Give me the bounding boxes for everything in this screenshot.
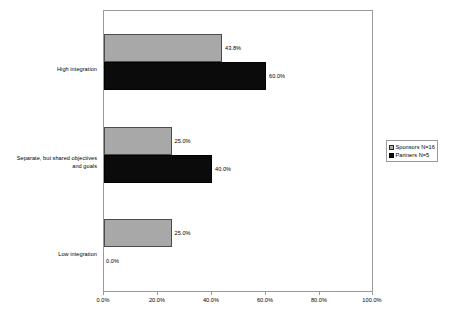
x-axis-tick-labels: 0.0% 20.0% 40.0% 60.0% 80.0% 100.0% bbox=[103, 296, 373, 308]
x-tick-label-100: 100.0% bbox=[362, 296, 381, 304]
x-tick-label-80: 80.0% bbox=[311, 296, 327, 304]
x-tick-label-20: 20.0% bbox=[149, 296, 165, 304]
bar-value-partners-low-integration: 0.0% bbox=[106, 258, 119, 264]
category-label-separate-shared-objectives: Separate, but shared objectives and goal… bbox=[0, 155, 97, 170]
legend-swatch-icon-sponsors bbox=[389, 145, 394, 150]
bar-chart: High integration Separate, but shared ob… bbox=[0, 0, 449, 311]
bar-sponsors-high-integration bbox=[104, 34, 222, 62]
x-tick-label-60: 60.0% bbox=[257, 296, 273, 304]
category-label-low-integration: Low integration bbox=[0, 251, 97, 259]
bar-value-sponsors-high-integration: 43.8% bbox=[225, 45, 241, 51]
legend-label-partners: Partners N=5 bbox=[396, 151, 430, 159]
bar-partners-separate-shared-objectives bbox=[104, 155, 212, 183]
legend-item-sponsors: Sponsors N=16 bbox=[389, 143, 435, 151]
bar-value-sponsors-low-integration: 25.0% bbox=[175, 230, 191, 236]
category-label-high-integration: High integration bbox=[0, 66, 97, 74]
x-tick-mark bbox=[211, 292, 212, 295]
bar-sponsors-low-integration bbox=[104, 219, 172, 247]
x-tick-mark bbox=[103, 292, 104, 295]
bar-value-partners-separate-shared-objectives: 40.0% bbox=[215, 166, 231, 172]
x-tick-mark bbox=[372, 292, 373, 295]
x-tick-label-0: 0.0% bbox=[97, 296, 110, 304]
x-tick-label-40: 40.0% bbox=[203, 296, 219, 304]
legend-swatch-icon-partners bbox=[389, 153, 394, 158]
bar-value-sponsors-separate-shared-objectives: 25.0% bbox=[175, 138, 191, 144]
bar-sponsors-separate-shared-objectives bbox=[104, 127, 172, 155]
x-tick-mark bbox=[265, 292, 266, 295]
category-axis-labels: High integration Separate, but shared ob… bbox=[0, 10, 101, 292]
legend-item-partners: Partners N=5 bbox=[389, 151, 435, 159]
bar-partners-high-integration bbox=[104, 62, 266, 90]
x-tick-mark bbox=[157, 292, 158, 295]
legend-label-sponsors: Sponsors N=16 bbox=[396, 143, 435, 151]
chart-legend: Sponsors N=16 Partners N=5 bbox=[386, 140, 438, 162]
plot-area: 43.8% 60.0% 25.0% 40.0% 25.0% 0.0% bbox=[103, 10, 373, 292]
bar-value-partners-high-integration: 60.0% bbox=[269, 73, 285, 79]
x-tick-mark bbox=[319, 292, 320, 295]
